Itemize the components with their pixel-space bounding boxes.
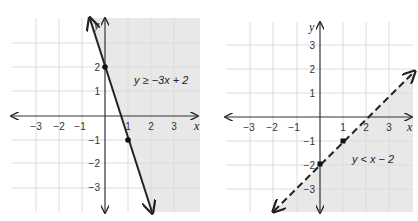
right-x-label: x [406, 120, 413, 134]
left-xtick: −3 [30, 121, 42, 132]
right-xtick: −1 [288, 122, 300, 133]
right-point-0-neg2 [318, 162, 323, 167]
left-inequality-label: y ≥ −3x + 2 [133, 74, 188, 86]
inequality-graphs: −3 −2 −1 1 2 3 2 1 −1 −2 −3 x y y ≥ −3x … [0, 0, 418, 221]
right-xtick: 1 [340, 122, 346, 133]
left-ytick: −2 [89, 158, 101, 169]
left-y-label: y [93, 18, 100, 32]
right-ytick: −1 [304, 136, 316, 147]
right-y-label: y [308, 20, 315, 34]
right-xtick: −3 [243, 122, 255, 133]
left-graph: −3 −2 −1 1 2 3 2 1 −1 −2 −3 x y y ≥ −3x … [12, 18, 200, 212]
right-ytick: −2 [304, 160, 316, 171]
right-ytick: 2 [309, 64, 315, 75]
left-ytick: 2 [94, 62, 100, 73]
left-point-1-neg1 [125, 137, 131, 143]
left-point-0-2 [102, 64, 108, 70]
right-xtick: 3 [386, 122, 392, 133]
left-xtick: 3 [171, 121, 177, 132]
right-point-1-neg1 [341, 139, 346, 144]
right-graph: −3 −2 −1 1 2 3 3 2 1 −1 −2 −3 x y y < x … [226, 20, 414, 212]
right-inequality-label: y < x − 2 [351, 153, 394, 165]
left-x-label: x [193, 119, 200, 133]
right-xtick: 2 [363, 122, 369, 133]
right-xtick: −2 [266, 122, 278, 133]
left-xtick: 2 [148, 121, 154, 132]
left-xtick: 1 [125, 121, 131, 132]
left-xtick: −2 [53, 121, 65, 132]
right-ytick: 3 [309, 40, 315, 51]
left-xtick: −1 [74, 121, 86, 132]
left-ytick: 1 [94, 86, 100, 97]
left-ytick: −3 [89, 182, 101, 193]
right-ytick: 1 [309, 88, 315, 99]
left-ytick: −1 [89, 135, 101, 146]
right-ytick: −3 [304, 184, 316, 195]
